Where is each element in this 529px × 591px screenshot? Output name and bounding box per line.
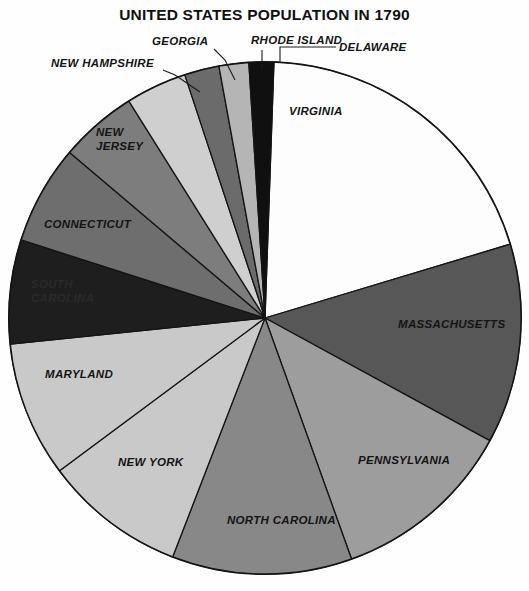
slice-label-virginia: VIRGINIA bbox=[289, 105, 343, 117]
slice-label-north-carolina: NORTH CAROLINA bbox=[227, 514, 336, 526]
leader-line-delaware bbox=[280, 47, 336, 62]
slice-label-delaware: DELAWARE bbox=[339, 41, 407, 53]
slice-label-georgia: GEORGIA bbox=[152, 35, 208, 47]
slice-label-massachusetts: MASSACHUSETTS bbox=[398, 318, 505, 330]
slice-label-rhode-island: RHODE ISLAND bbox=[251, 34, 342, 46]
slice-label-pennsylvania: PENNSYLVANIA bbox=[358, 454, 450, 466]
slice-label-connecticut: CONNECTICUT bbox=[44, 218, 132, 230]
pie-chart-graphic: VIRGINIAMASSACHUSETTSPENNSYLVANIANORTH C… bbox=[0, 0, 529, 591]
slice-label-maryland: MARYLAND bbox=[45, 368, 113, 380]
pie-chart-page: UNITED STATES POPULATION IN 1790 VIRGINI… bbox=[0, 0, 529, 591]
slice-label-new-hampshire: NEW HAMPSHIRE bbox=[51, 57, 154, 69]
slice-label-new-york: NEW YORK bbox=[118, 456, 184, 468]
